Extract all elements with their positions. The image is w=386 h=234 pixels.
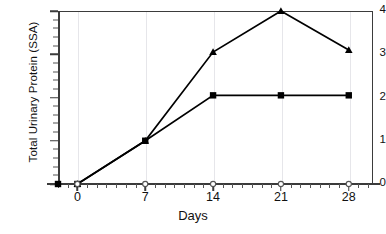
y-tick-major <box>50 54 58 56</box>
y-tick-major <box>50 140 58 142</box>
y-tick-minor <box>53 28 58 29</box>
x-tick-major <box>280 184 282 191</box>
y-tick-minor <box>53 114 58 115</box>
gridline <box>214 12 215 183</box>
y-tick-major <box>50 183 58 185</box>
x-tick-minor <box>106 184 107 188</box>
y-axis-label: Total Urinary Protein (SSA) <box>27 0 39 192</box>
gridline <box>350 12 351 183</box>
chart-figure: Total Urinary Protein (SSA) 01234 071421… <box>0 0 386 234</box>
y-tick-minor <box>53 123 58 124</box>
y-tick-label: 3 <box>364 46 386 58</box>
x-tick-minor <box>155 184 156 188</box>
x-tick-minor <box>184 184 185 188</box>
x-tick-minor <box>174 184 175 188</box>
gridline <box>282 12 283 183</box>
x-tick-minor <box>329 184 330 188</box>
x-tick-minor <box>339 184 340 188</box>
x-tick-label: 21 <box>261 190 301 204</box>
x-tick-minor <box>310 184 311 188</box>
y-tick-minor <box>53 36 58 37</box>
y-tick-minor <box>53 166 58 167</box>
x-tick-minor <box>242 184 243 188</box>
x-tick-minor <box>165 184 166 188</box>
x-tick-minor <box>358 184 359 188</box>
y-tick-minor <box>53 62 58 63</box>
x-tick-minor <box>320 184 321 188</box>
x-tick-minor <box>87 184 88 188</box>
y-tick-minor <box>53 175 58 176</box>
x-tick-label: 7 <box>125 190 165 204</box>
x-tick-major <box>77 184 79 191</box>
y-tick-minor <box>53 158 58 159</box>
x-tick-minor <box>97 184 98 188</box>
y-tick-major <box>50 10 58 12</box>
y-tick-minor <box>53 80 58 81</box>
x-tick-major <box>212 184 214 191</box>
x-tick-minor <box>300 184 301 188</box>
x-axis-label: Days <box>0 208 386 223</box>
x-tick-minor <box>136 184 137 188</box>
x-tick-minor <box>116 184 117 188</box>
x-tick-minor <box>368 184 369 188</box>
plot-area <box>58 11 373 184</box>
x-tick-minor <box>223 184 224 188</box>
y-tick-label: 1 <box>364 133 386 145</box>
x-tick-minor <box>126 184 127 188</box>
x-tick-label: 14 <box>193 190 233 204</box>
x-tick-minor <box>58 184 59 188</box>
y-tick-label: 2 <box>364 90 386 102</box>
x-tick-major <box>348 184 350 191</box>
y-tick-label: 4 <box>364 3 386 15</box>
x-tick-minor <box>271 184 272 188</box>
y-tick-major <box>50 97 58 99</box>
y-tick-minor <box>53 71 58 72</box>
y-tick-minor <box>53 19 58 20</box>
y-tick-minor <box>53 45 58 46</box>
y-tick-minor <box>53 149 58 150</box>
x-tick-minor <box>232 184 233 188</box>
x-tick-major <box>144 184 146 191</box>
y-tick-minor <box>53 132 58 133</box>
x-tick-minor <box>68 184 69 188</box>
x-tick-label: 0 <box>57 190 97 204</box>
gridline <box>78 12 79 183</box>
x-tick-label: 28 <box>329 190 369 204</box>
gridline <box>146 12 147 183</box>
y-tick-minor <box>53 106 58 107</box>
x-tick-minor <box>252 184 253 188</box>
x-tick-minor <box>262 184 263 188</box>
y-axis-line <box>58 11 60 184</box>
y-tick-minor <box>53 88 58 89</box>
x-tick-minor <box>194 184 195 188</box>
x-tick-minor <box>291 184 292 188</box>
x-tick-minor <box>203 184 204 188</box>
